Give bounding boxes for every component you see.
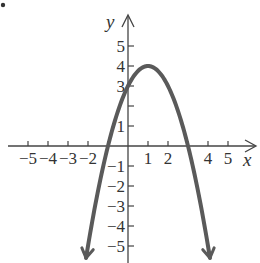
y-tick-label: −3 [107,197,125,216]
graph-figure: −5−4−3−212455431−1−2−3−4−5 x y [0,0,260,263]
bullet-marker [1,3,5,7]
x-tick-label: 2 [164,149,173,168]
x-tick-label: 1 [144,149,153,168]
x-tick-label: −3 [59,149,77,168]
y-tick-label: −1 [107,157,125,176]
x-tick-label: 5 [224,149,233,168]
x-tick-label: −4 [39,149,58,168]
x-axis-label: x [242,149,252,170]
x-tick-label: 4 [204,149,213,168]
y-tick-label: −4 [107,217,126,236]
y-tick-label: 4 [117,57,126,76]
y-tick-label: −5 [107,237,125,256]
x-tick-label: −5 [19,149,37,168]
x-tick-label: −2 [79,149,97,168]
y-tick-label: −2 [107,177,125,196]
parabola-plot: −5−4−3−212455431−1−2−3−4−5 x y [0,0,260,263]
y-tick-label: 1 [117,117,126,136]
y-axis-label: y [104,11,115,32]
y-tick-label: 5 [117,37,126,56]
